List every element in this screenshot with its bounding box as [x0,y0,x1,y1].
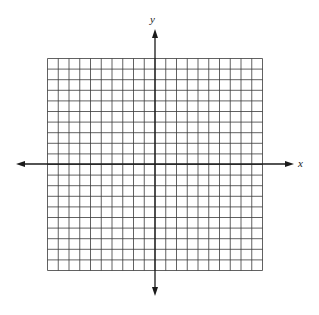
x-axis-right-arrow-icon [285,161,294,167]
coordinate-plane: x y [0,0,319,315]
y-axis-down-arrow-icon [152,287,158,296]
y-axis-label: y [149,13,155,25]
x-axis-left-arrow-icon [16,161,25,167]
y-axis-up-arrow-icon [152,29,158,38]
x-axis-label: x [297,157,303,169]
